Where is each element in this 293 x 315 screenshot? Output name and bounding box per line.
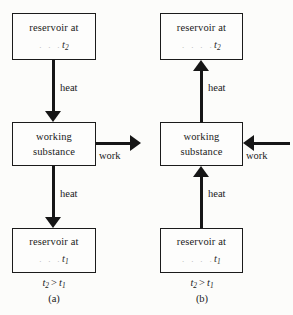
working-substance-box-a: working substance [12,122,96,166]
arrow-shaft [200,69,203,122]
hot-reservoir-label-b: reservoir at [177,20,226,35]
cold-reservoir-label-a: reservoir at [29,234,78,249]
lower-heat-label-a: heat [60,188,78,199]
arrow-shaft [96,142,132,145]
hot-temp-subscript-b: 2 [217,43,221,52]
arrow-head-left-icon [243,135,254,151]
faded-dots-b-cold: . . . . [182,254,214,264]
panel-b-heat-pump: reservoir at . . . .t2 heat working subs… [146,0,293,315]
thermodynamic-cycle-figure: reservoir at . . .t2 heat working substa… [0,0,293,315]
working-substance-line1-a: working [36,129,72,144]
relation-right-subscript-a: 1 [62,281,66,290]
work-label-b: work [246,150,268,161]
faded-dots-a-cold: . . . [39,254,62,264]
relation-left-subscript-b: 2 [193,281,197,290]
relation-operator-a: > [51,277,57,288]
hot-temp-subscript-a: 2 [65,43,69,52]
temperature-relation-b: t2>t1 [148,277,256,290]
cold-reservoir-temperature-b: . . . .t1 [182,251,221,268]
panel-caption-b: (b) [148,293,256,304]
cold-temp-subscript-b: 1 [217,257,221,266]
temperature-relation-a: t2>t1 [0,277,108,290]
relation-right-subscript-b: 1 [210,281,214,290]
cold-reservoir-box-b: reservoir at . . . .t1 [160,228,243,273]
panel-a-heat-engine: reservoir at . . .t2 heat working substa… [0,0,147,315]
arrow-head-up-icon [193,166,209,177]
arrow-head-up-icon [193,60,209,71]
work-label-a: work [99,150,121,161]
cold-reservoir-temperature-a: . . .t1 [39,251,69,268]
cold-reservoir-label-b: reservoir at [177,234,226,249]
hot-reservoir-box-a: reservoir at . . .t2 [12,13,96,60]
arrow-shaft [252,142,290,145]
upper-heat-label-b: heat [208,82,226,93]
lower-heat-label-b: heat [208,188,226,199]
hot-reservoir-label-a: reservoir at [29,20,78,35]
hot-reservoir-box-b: reservoir at . . . .t2 [160,13,243,60]
arrow-shaft [52,60,55,113]
hot-reservoir-temperature-a: . . .t2 [39,37,69,54]
panel-caption-a: (a) [0,293,108,304]
arrow-shaft [200,175,203,228]
relation-left-subscript-a: 2 [45,281,49,290]
arrow-head-down-icon [45,111,61,122]
relation-operator-b: > [199,277,205,288]
faded-dots-b-hot: . . . . [182,40,214,50]
arrow-head-right-icon [130,135,141,151]
working-substance-line2-a: substance [33,144,75,159]
arrow-shaft [52,166,55,219]
working-substance-box-b: working substance [160,122,243,166]
cold-temp-subscript-a: 1 [65,257,69,266]
hot-reservoir-temperature-b: . . . .t2 [182,37,221,54]
arrow-head-down-icon [45,217,61,228]
cold-reservoir-box-a: reservoir at . . .t1 [12,228,96,273]
working-substance-line1-b: working [183,129,219,144]
upper-heat-label-a: heat [60,82,78,93]
working-substance-line2-b: substance [180,144,222,159]
faded-dots-a-hot: . . . [39,40,62,50]
